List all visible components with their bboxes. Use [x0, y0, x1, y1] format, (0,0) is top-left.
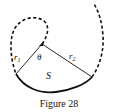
spiral-sector-arc: [16, 74, 92, 92]
spiral-outer-dashed: [92, 4, 103, 77]
figure-caption: Figure 28: [40, 98, 79, 109]
label-r1: r1: [14, 52, 21, 63]
label-theta: θ: [37, 52, 42, 62]
label-area-s: S: [46, 70, 51, 81]
spiral-sector-diagram: r1 θ r2 S Figure 28: [0, 0, 119, 112]
label-r2: r2: [69, 51, 76, 62]
